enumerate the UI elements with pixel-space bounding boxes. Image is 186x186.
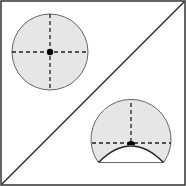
diagram-canvas bbox=[0, 0, 186, 186]
center-dot bbox=[47, 49, 53, 55]
full-circle-figure bbox=[12, 14, 88, 90]
